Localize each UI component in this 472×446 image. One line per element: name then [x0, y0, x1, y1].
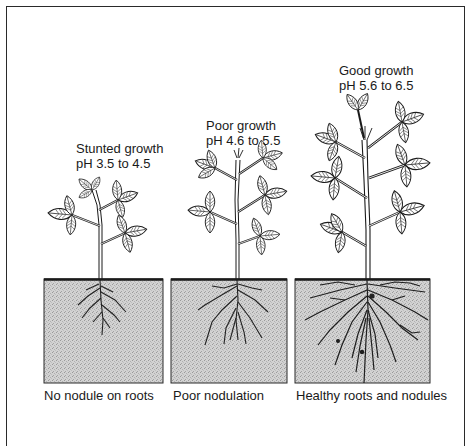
plant-2-ph-label: pH 4.6 to 5.5	[206, 133, 280, 148]
plant-1-label: Stunted growth pH 3.5 to 4.5	[76, 141, 163, 171]
plant-3-ph-label: pH 5.6 to 6.5	[339, 78, 413, 93]
plant-3-caption: Healthy roots and nodules	[296, 388, 447, 403]
plant-2-caption: Poor nodulation	[173, 388, 264, 403]
plant-3-label: Good growth pH 5.6 to 6.5	[339, 63, 413, 93]
soil-box-1	[44, 279, 163, 383]
plant-1-caption: No nodule on roots	[44, 388, 154, 403]
plant-1-ph-label: pH 3.5 to 4.5	[76, 156, 163, 171]
plant-3-shoot	[311, 91, 431, 280]
plant-2-label: Poor growth pH 4.6 to 5.5	[206, 118, 280, 148]
plant-3-growth-label: Good growth	[339, 63, 413, 78]
plant-2-shoot	[188, 140, 288, 280]
plant-2-growth-label: Poor growth	[206, 118, 280, 133]
soil-box-2	[171, 279, 287, 383]
plant-1-shoot	[48, 175, 148, 280]
plant-1-growth-label: Stunted growth	[76, 141, 163, 156]
